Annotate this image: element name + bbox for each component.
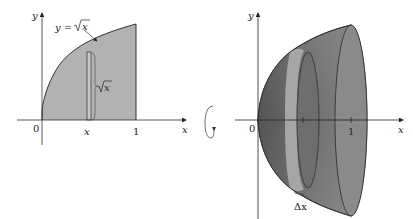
strip-x-label: x: [84, 126, 90, 137]
left-x-axis-label: x: [182, 124, 188, 135]
vertical-strip: [87, 52, 91, 120]
figure-canvas: y x 0 1 x y = x x: [0, 0, 413, 219]
right-origin-label: 0: [249, 123, 255, 134]
right-y-axis-label: y: [247, 10, 254, 21]
rotation-arrow-icon: [205, 106, 216, 138]
left-tick-one-label: 1: [133, 126, 139, 137]
left-y-axis-label: y: [31, 10, 38, 21]
right-figure: y x 0 1 Δx: [235, 10, 404, 219]
left-origin-label: 0: [33, 123, 39, 134]
height-label-radicand: x: [104, 82, 110, 93]
left-figure: y x 0 1 x y = x x: [17, 10, 188, 145]
delta-x-label: Δx: [294, 201, 307, 212]
right-tick-one-label: 1: [348, 126, 354, 137]
curve-label-prefix: y =: [54, 22, 72, 33]
curve-label-radicand: x: [82, 21, 88, 32]
right-x-axis-label: x: [398, 124, 404, 135]
